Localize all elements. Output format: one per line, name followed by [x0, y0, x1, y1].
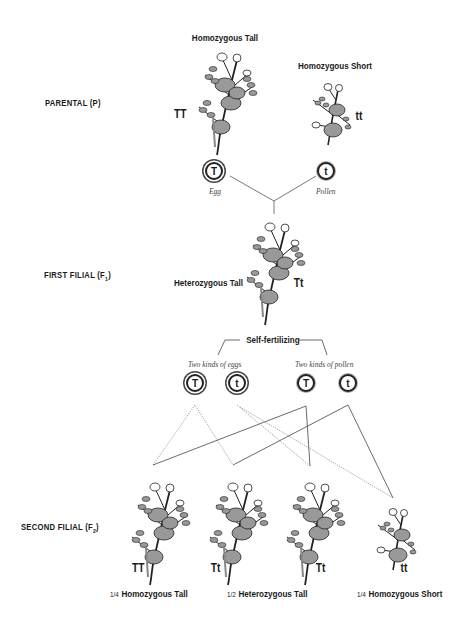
ratio-fraction-2: 1/2 — [227, 590, 236, 599]
ratio-heterozygous-tall: 1/2Heterozygous Tall — [227, 588, 307, 599]
ratio-fraction-1: 1/4 — [110, 590, 119, 599]
ratio-homozygous-tall: 1/4Homozygous Tall — [110, 588, 188, 599]
f1-plant — [247, 223, 305, 325]
f2-genotype-1: TT — [132, 561, 144, 575]
ratio-fraction-3: 1/4 — [357, 590, 366, 599]
f1-pollen-t: t — [339, 374, 357, 392]
parental-short-plant — [312, 84, 351, 146]
egg-caption: Egg — [209, 187, 221, 196]
plant-drawings — [0, 0, 461, 622]
ratio-homozygous-short: 1/4Homozygous Short — [357, 588, 442, 599]
pollen-caption-f1: Two kinds of pollen — [295, 360, 353, 369]
f2-genotype-3: Tt — [316, 561, 326, 575]
ratio-label-2: Heterozygous Tall — [238, 588, 307, 599]
f1-egg-t: t — [228, 374, 246, 392]
eggs-caption: Two kinds of eggs — [188, 360, 241, 369]
egg-gamete-T: T — [205, 162, 223, 180]
f1-title: Heterozygous Tall — [174, 277, 242, 288]
f1-egg-T: T — [186, 374, 204, 392]
f1-pollen-T: T — [297, 374, 315, 392]
ratio-label-3: Homozygous Short — [368, 588, 442, 599]
parental-tall-genotype: TT — [174, 107, 186, 121]
self-fertilizing-label: Self-fertilizing — [246, 334, 294, 345]
parental-tall-plant — [199, 53, 257, 155]
pollen-gamete-t: t — [317, 162, 335, 180]
pollen-caption: Pollen — [316, 187, 336, 196]
f2-plant-tt — [377, 509, 416, 571]
ratio-label-1: Homozygous Tall — [121, 588, 187, 599]
f2-genotype-2: Tt — [211, 561, 221, 575]
f1-genotype: Tt — [294, 276, 304, 290]
f2-genotype-4: tt — [401, 561, 408, 575]
parental-short-genotype: tt — [356, 109, 363, 123]
